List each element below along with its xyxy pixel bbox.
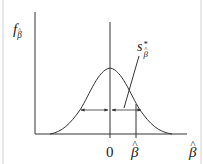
density-curve — [50, 68, 172, 134]
tick-zero-label: 0 — [106, 145, 114, 160]
tick-estimate-label: β — [131, 145, 138, 160]
spread-label: s*β — [137, 40, 148, 58]
x-axis-label: β — [189, 145, 196, 160]
y-axis-label: fβ — [13, 22, 22, 40]
distribution-diagram — [0, 0, 203, 164]
spread-leader-line — [124, 56, 139, 108]
